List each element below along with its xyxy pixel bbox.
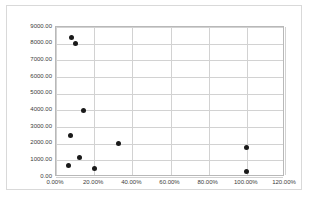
gridline-horizontal [56, 144, 283, 145]
data-point [69, 35, 74, 40]
gridline-horizontal [56, 127, 283, 128]
y-axis-tick-label: 1000.00 [8, 156, 52, 163]
gridline-vertical [247, 27, 248, 175]
gridline-vertical [94, 27, 95, 175]
x-axis-tick-labels: 0.00%20.00%40.00%60.00%80.00%100.00%120.… [55, 178, 284, 192]
y-axis-tick-label: 7000.00 [8, 56, 52, 63]
gridline-horizontal [56, 60, 283, 61]
y-axis-tick-labels: 0.001000.002000.003000.004000.005000.006… [7, 26, 52, 176]
y-axis-tick-label: 9000.00 [8, 23, 52, 30]
data-point [116, 141, 121, 146]
data-point [81, 108, 86, 113]
gridline-vertical [56, 27, 57, 175]
data-point [73, 41, 78, 46]
y-axis-tick-label: 5000.00 [8, 89, 52, 96]
gridline-vertical [171, 27, 172, 175]
data-point [244, 145, 249, 150]
data-point [66, 163, 71, 168]
gridline-vertical [132, 27, 133, 175]
x-axis-tick-label: 100.00% [226, 178, 266, 186]
y-axis-tick-label: 2000.00 [8, 139, 52, 146]
data-point [244, 169, 249, 174]
x-axis-tick-label: 0.00% [35, 178, 75, 186]
gridline-horizontal [56, 27, 283, 28]
gridline-horizontal [56, 94, 283, 95]
x-axis-tick-label: 20.00% [73, 178, 113, 186]
y-axis-tick-label: 8000.00 [8, 39, 52, 46]
gridline-horizontal [56, 44, 283, 45]
x-axis-tick-label: 40.00% [111, 178, 151, 186]
x-axis-tick-label: 60.00% [150, 178, 190, 186]
data-point [77, 155, 82, 160]
y-axis-tick-label: 3000.00 [8, 123, 52, 130]
gridline-horizontal [56, 110, 283, 111]
gridline-vertical [285, 27, 286, 175]
gridline-horizontal [56, 160, 283, 161]
y-axis-tick-label: 6000.00 [8, 73, 52, 80]
x-axis-tick-label: 120.00% [264, 178, 304, 186]
scatter-plot-area [55, 26, 284, 176]
gridline-horizontal [56, 77, 283, 78]
y-axis-tick-label: 4000.00 [8, 106, 52, 113]
chart-frame: 0.001000.002000.003000.004000.005000.006… [6, 5, 302, 190]
data-point [92, 166, 97, 171]
x-axis-tick-label: 80.00% [188, 178, 228, 186]
data-point [68, 133, 73, 138]
gridline-vertical [209, 27, 210, 175]
